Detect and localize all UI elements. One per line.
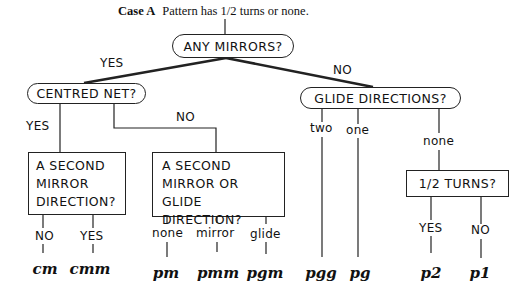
edge-label-any-mirrors-yes: YES — [100, 56, 123, 70]
flowchart: Case A Pattern has 1/2 turns or none. AN… — [0, 0, 528, 299]
group-pgm: pgm — [247, 264, 284, 282]
node-label: CENTRED NET? — [36, 86, 136, 101]
edge-label-second-mirror-yes: YES — [80, 229, 103, 243]
node-label: 1/2 TURNS? — [419, 175, 496, 193]
node-label-line: DIRECTION? — [36, 193, 118, 211]
edge-label-glide-one: one — [346, 123, 369, 137]
edge-label-glide-two: two — [310, 121, 333, 135]
edge-label-centred-no: NO — [176, 110, 195, 124]
node-half-turns: 1/2 TURNS? — [406, 170, 509, 197]
node-second-mirror-direction: A SECOND MIRROR DIRECTION? — [28, 152, 126, 215]
node-second-mirror-or-glide: A SECOND MIRROR OR GLIDE DIRECTION? — [152, 152, 285, 217]
node-label-line: A SECOND — [36, 157, 118, 175]
group-cm: cm — [32, 260, 57, 278]
group-pg: pg — [350, 264, 371, 282]
edge-label-any-mirrors-no: NO — [333, 63, 352, 77]
edge-label-turns-no: NO — [471, 223, 490, 237]
node-label: GLIDE DIRECTIONS? — [314, 91, 446, 106]
edge-label-smg-mirror: mirror — [196, 226, 235, 240]
edge-label-centred-yes: YES — [26, 119, 49, 133]
node-label-line: MIRROR OR GLIDE — [162, 175, 275, 211]
node-any-mirrors: ANY MIRRORS? — [172, 34, 294, 58]
edge-label-turns-yes: YES — [419, 221, 442, 235]
case-description: Pattern has 1/2 turns or none. — [162, 4, 309, 18]
group-cmm: cmm — [70, 260, 111, 278]
node-centred-net: CENTRED NET? — [27, 83, 146, 104]
node-label: ANY MIRRORS? — [183, 39, 282, 54]
group-pmm: pmm — [197, 264, 239, 282]
group-pgg: pgg — [305, 264, 336, 282]
edge-label-second-mirror-no: NO — [35, 229, 54, 243]
edge-label-smg-none: none — [152, 226, 183, 240]
case-label: Case A — [118, 4, 155, 18]
group-p2: p2 — [421, 264, 442, 282]
edge-label-smg-glide: glide — [250, 227, 281, 241]
node-glide-directions: GLIDE DIRECTIONS? — [300, 87, 461, 109]
node-label-line: MIRROR — [36, 175, 118, 193]
case-caption: Case A Pattern has 1/2 turns or none. — [118, 4, 309, 19]
edge-label-glide-none: none — [423, 134, 454, 148]
group-pm: pm — [153, 264, 179, 282]
group-p1: p1 — [470, 264, 491, 282]
node-label-line: A SECOND — [162, 157, 275, 175]
